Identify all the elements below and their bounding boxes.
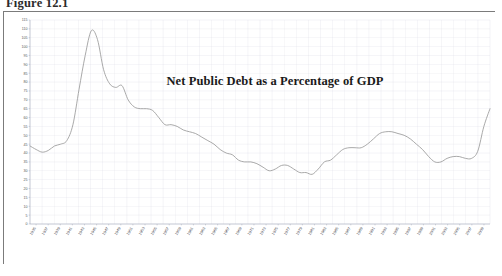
svg-text:45: 45 (24, 143, 28, 147)
svg-text:35: 35 (24, 160, 28, 164)
svg-text:0: 0 (26, 222, 28, 226)
svg-text:70: 70 (24, 98, 28, 102)
svg-text:110: 110 (22, 27, 28, 31)
figure-label: Figure 12.1 (6, 0, 68, 11)
svg-text:105: 105 (22, 36, 28, 40)
svg-text:95: 95 (24, 54, 28, 58)
svg-text:50: 50 (24, 134, 28, 138)
chart-frame: 0510152025303540455055606570758085909510… (3, 11, 495, 264)
svg-text:80: 80 (24, 80, 28, 84)
svg-text:115: 115 (22, 18, 28, 22)
svg-text:75: 75 (24, 89, 28, 93)
debt-gdp-line-chart: 0510152025303540455055606570758085909510… (4, 12, 496, 265)
svg-text:10: 10 (24, 205, 28, 209)
svg-text:25: 25 (24, 178, 28, 182)
svg-text:30: 30 (24, 169, 28, 173)
svg-text:65: 65 (24, 107, 28, 111)
svg-text:40: 40 (24, 151, 28, 155)
svg-text:55: 55 (24, 125, 28, 129)
svg-text:20: 20 (24, 187, 28, 191)
svg-text:15: 15 (24, 196, 28, 200)
svg-text:100: 100 (22, 45, 28, 49)
svg-text:90: 90 (24, 63, 28, 67)
svg-text:5: 5 (26, 214, 28, 218)
chart-plot-area: 0510152025303540455055606570758085909510… (4, 12, 494, 263)
document-page: Figure 12.1 0510152025303540455055606570… (0, 0, 502, 276)
svg-text:85: 85 (24, 72, 28, 76)
svg-text:60: 60 (24, 116, 28, 120)
